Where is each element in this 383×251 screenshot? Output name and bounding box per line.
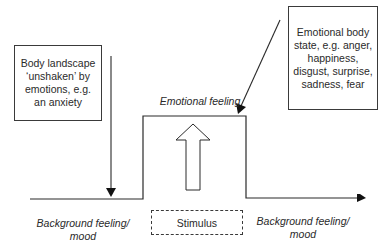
- body-landscape-box: Body landscape ‘unshaken’ by emotions, e…: [14, 45, 102, 121]
- stimulus-text: Stimulus: [177, 217, 217, 229]
- background-feeling-right-label: Background feeling/ mood: [253, 215, 353, 241]
- emotional-body-state-box: Emotional body state, e.g. anger, happin…: [288, 6, 378, 110]
- background-feeling-left-label: Background feeling/ mood: [33, 217, 133, 243]
- emotional-body-state-text: Emotional body state, e.g. anger, happin…: [293, 26, 373, 91]
- emotional-feeling-label: Emotional feeling: [145, 95, 255, 108]
- body-landscape-text: Body landscape ‘unshaken’ by emotions, e…: [19, 57, 97, 109]
- stimulus-box: Stimulus: [151, 210, 243, 235]
